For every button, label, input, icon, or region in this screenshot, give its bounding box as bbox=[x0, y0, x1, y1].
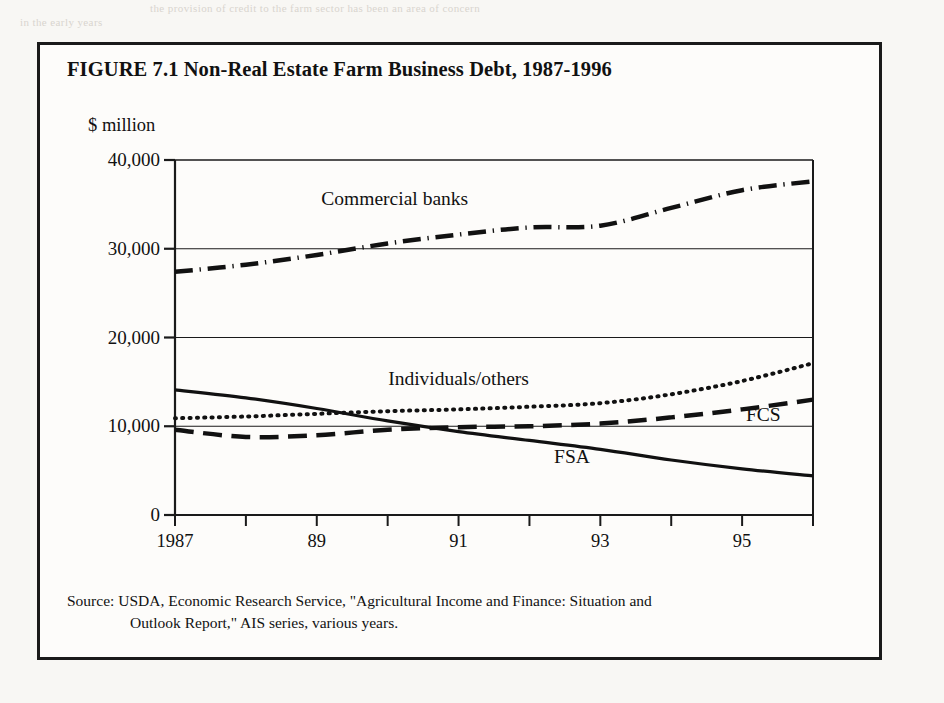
source-note-line-2: Outlook Report," AIS series, various yea… bbox=[67, 612, 857, 634]
scan-bleed-text-second: in the early years bbox=[20, 16, 103, 28]
series-label-commercial-banks: Commercial banks bbox=[321, 188, 468, 210]
series-line-fcs bbox=[175, 400, 813, 438]
x-tick-label: 95 bbox=[733, 531, 752, 552]
series-label-fcs: FCS bbox=[746, 404, 781, 426]
series-paths-group bbox=[175, 181, 813, 476]
series-line-commercial-banks bbox=[175, 181, 813, 272]
y-tick-label: 20,000 bbox=[108, 327, 160, 349]
line-chart-svg bbox=[40, 45, 885, 663]
x-tick-label: 1987 bbox=[157, 531, 194, 552]
series-label-individuals-others: Individuals/others bbox=[388, 368, 529, 390]
series-line-fsa bbox=[175, 390, 813, 476]
source-note: Source: USDA, Economic Research Service,… bbox=[67, 590, 857, 635]
page-canvas: the provision of credit to the farm sect… bbox=[0, 0, 944, 703]
source-note-line-1: Source: USDA, Economic Research Service,… bbox=[67, 592, 652, 609]
series-label-fsa: FSA bbox=[554, 446, 590, 468]
scan-bleed-text-top: the provision of credit to the farm sect… bbox=[150, 2, 480, 14]
y-tick-label: 0 bbox=[151, 504, 161, 526]
y-tick-label: 10,000 bbox=[108, 415, 160, 437]
y-tick-label: 40,000 bbox=[108, 149, 160, 171]
chart-plot-area: 010,00020,00030,00040,000 198789919395 C… bbox=[40, 45, 885, 663]
axis-ticks-group bbox=[164, 160, 813, 526]
x-tick-label: 91 bbox=[449, 531, 468, 552]
x-tick-label: 93 bbox=[591, 531, 610, 552]
y-tick-label: 30,000 bbox=[108, 238, 160, 260]
figure-frame: FIGURE 7.1 Non-Real Estate Farm Business… bbox=[37, 42, 882, 660]
x-tick-label: 89 bbox=[308, 531, 327, 552]
